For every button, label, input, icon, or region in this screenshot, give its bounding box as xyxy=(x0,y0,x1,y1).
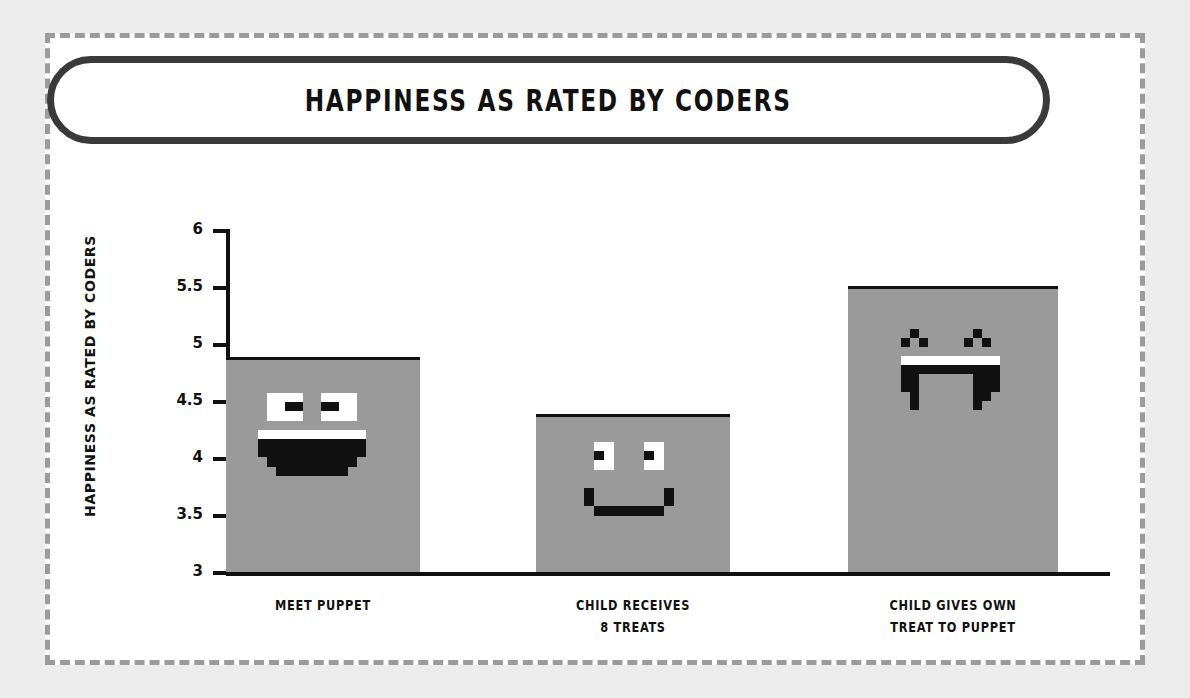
chart-title-container: HAPPINESS AS RATED BY CODERS xyxy=(47,56,1050,144)
x-tick-label-line: 8 TREATS xyxy=(561,616,705,638)
bar-child-receives-8-treats[interactable] xyxy=(536,414,730,572)
y-tick-label-5.5: 5.5 xyxy=(143,277,203,295)
x-tick-label-line: CHILD GIVES OWN xyxy=(881,594,1025,616)
bar-child-gives-own-treat-to-puppet[interactable] xyxy=(848,286,1058,572)
pixel-smiley-teeth-icon xyxy=(258,393,366,485)
x-tick-label-line: MEET PUPPET xyxy=(251,594,395,616)
x-tick-label-child-gives-own-treat-to-puppet: CHILD GIVES OWN TREAT TO PUPPET xyxy=(881,594,1025,638)
y-tick-label-6: 6 xyxy=(143,220,203,238)
y-tick-label-4: 4 xyxy=(143,448,203,466)
x-axis-line xyxy=(226,572,1110,576)
y-tick-5 xyxy=(213,343,230,347)
x-tick-label-meet-puppet: MEET PUPPET xyxy=(251,594,395,616)
y-axis-title: HAPPINESS AS RATED BY CODERS xyxy=(82,211,98,541)
chart-title: HAPPINESS AS RATED BY CODERS xyxy=(305,83,792,118)
x-tick-label-child-receives-8-treats: CHILD RECEIVES 8 TREATS xyxy=(561,594,705,638)
y-tick-label-5: 5 xyxy=(143,334,203,352)
y-tick-label-3: 3 xyxy=(143,562,203,580)
bar-meet-puppet[interactable] xyxy=(226,357,420,572)
y-tick-5.5 xyxy=(213,286,230,290)
pixel-smiley-excited-open-mouth-icon xyxy=(892,329,1009,419)
y-tick-6 xyxy=(213,229,230,233)
y-tick-label-3.5: 3.5 xyxy=(143,505,203,523)
y-tick-label-4.5: 4.5 xyxy=(143,391,203,409)
x-tick-label-line: CHILD RECEIVES xyxy=(561,594,705,616)
x-tick-label-line: TREAT TO PUPPET xyxy=(881,616,1025,638)
pixel-smiley-u-mouth-icon xyxy=(574,442,684,534)
